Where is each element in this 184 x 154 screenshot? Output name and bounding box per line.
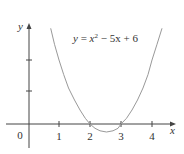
tick-label-3: 3 xyxy=(118,130,124,142)
tick-label-1: 1 xyxy=(56,130,62,142)
parabola-chart: 0 1 2 3 4 x y y = x2 − 5x + 6 xyxy=(0,0,184,154)
y-axis-label: y xyxy=(17,20,23,32)
equation-label: y = x2 − 5x + 6 xyxy=(72,32,138,44)
tick-label-0: 0 xyxy=(17,129,23,141)
y-axis-arrow-icon xyxy=(27,23,32,29)
tick-label-4: 4 xyxy=(149,130,155,142)
tick-label-2: 2 xyxy=(87,130,93,142)
x-axis-label: x xyxy=(169,124,175,136)
